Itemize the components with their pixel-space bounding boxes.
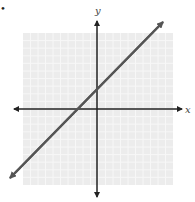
coordinate-graph: • x y [0, 0, 195, 202]
problem-marker: • [0, 3, 6, 14]
x-axis-label: x [185, 104, 191, 115]
y-axis-label: y [94, 5, 101, 16]
